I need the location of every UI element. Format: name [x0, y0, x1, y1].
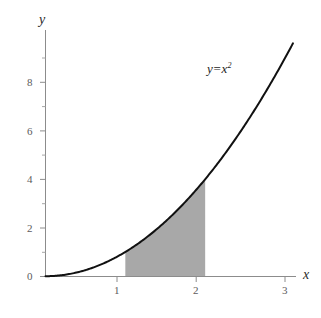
y-axis-label: y	[39, 13, 45, 27]
x-tick-label-2: 2	[193, 285, 199, 296]
y-axis-major-ticks	[40, 82, 46, 276]
y-tick-label-8: 8	[27, 77, 33, 88]
x-axis-major-ticks	[117, 277, 285, 283]
curve-equation-label: y=x2	[207, 62, 232, 75]
y-tick-label-4: 4	[27, 174, 33, 185]
x-tick-label-1: 1	[114, 285, 120, 296]
y-tick-label-0: 0	[27, 271, 33, 282]
curve-label-operator: =	[213, 61, 222, 76]
plot-area	[0, 0, 321, 318]
y-tick-label-2: 2	[27, 223, 33, 234]
figure-canvas: 0 2 4 6 8 1 2 3 y x y=x2	[0, 0, 321, 318]
y-tick-label-6: 6	[27, 126, 33, 137]
x-tick-label-3: 3	[282, 285, 288, 296]
x-axis-label: x	[303, 268, 309, 282]
curve-label-exponent: 2	[228, 61, 232, 70]
y-axis-minor-ticks	[42, 58, 46, 252]
